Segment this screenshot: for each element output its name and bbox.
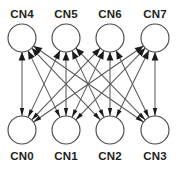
node-label-cn3: CN3 xyxy=(143,150,166,162)
arrowhead-into-cn6-from-cn2 xyxy=(107,52,114,61)
node-label-cn6: CN6 xyxy=(98,8,121,20)
arrowhead-into-cn2-from-cn7 xyxy=(116,109,121,117)
arrowhead-into-cn2-from-cn5 xyxy=(99,109,104,117)
arrowhead-into-cn4-from-cn0 xyxy=(19,52,26,61)
arrowhead-into-cn7-from-cn3 xyxy=(152,52,159,61)
bipartite-graph-svg: CN4CN5CN6CN7CN0CN1CN2CN3 xyxy=(0,0,184,170)
node-cn5[interactable] xyxy=(52,24,80,52)
node-label-cn5: CN5 xyxy=(54,8,78,20)
node-label-cn0: CN0 xyxy=(10,150,33,162)
node-label-cn4: CN4 xyxy=(10,8,34,20)
node-cn6[interactable] xyxy=(96,24,124,52)
arrowhead-into-cn1-from-cn4 xyxy=(55,109,60,117)
node-cn3[interactable] xyxy=(141,116,169,144)
arrowhead-into-cn0-from-cn5 xyxy=(28,109,33,117)
node-cn7[interactable] xyxy=(141,24,169,52)
node-label-cn2: CN2 xyxy=(98,150,121,162)
arrowhead-into-cn5-from-cn1 xyxy=(63,52,70,61)
node-cn0[interactable] xyxy=(8,116,36,144)
node-cn4[interactable] xyxy=(8,24,36,52)
arrowhead-into-cn1-from-cn5 xyxy=(64,108,68,116)
edge-layer xyxy=(22,46,155,122)
node-label-cn1: CN1 xyxy=(54,150,78,162)
node-cn2[interactable] xyxy=(96,116,124,144)
arrowhead-into-cn3-from-cn7 xyxy=(153,108,157,116)
arrowhead-into-cn1-from-cn6 xyxy=(72,109,77,117)
node-label-cn7: CN7 xyxy=(143,8,166,20)
node-cn1[interactable] xyxy=(52,116,80,144)
arrowhead-into-cn6-from-cn3 xyxy=(116,51,123,60)
arrowhead-into-cn5-from-cn0 xyxy=(53,51,60,60)
arrowhead-into-cn0-from-cn4 xyxy=(20,108,24,116)
diagram-canvas: CN4CN5CN6CN7CN0CN1CN2CN3 xyxy=(0,0,184,170)
arrowhead-into-cn3-from-cn6 xyxy=(143,109,148,117)
arrowhead-into-cn2-from-cn6 xyxy=(108,108,112,116)
